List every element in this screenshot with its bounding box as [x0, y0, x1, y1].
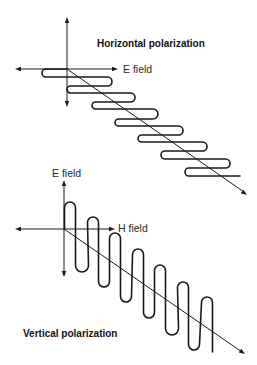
propagation-arrow-icon: [239, 349, 245, 354]
arrow-right-icon: [109, 227, 115, 231]
vertical-polarization-figure: E field H field Vertical polarization: [15, 167, 245, 354]
arrow-right-icon: [112, 67, 118, 71]
horizontal-polarization-figure: Horizontal polarization E field: [15, 17, 247, 195]
arrow-down-icon: [65, 101, 69, 107]
e-field-label: E field: [123, 63, 152, 75]
h-field-label: H field: [118, 222, 148, 234]
horizontal-wave: [42, 69, 240, 176]
arrow-up-icon: [62, 180, 66, 186]
e-field-label: E field: [52, 167, 81, 179]
arrow-up-icon: [65, 17, 69, 23]
arrow-left-icon: [15, 227, 21, 231]
polarization-diagram: Horizontal polarization E field E field …: [0, 0, 257, 365]
arrow-down-icon: [62, 271, 66, 277]
horizontal-polarization-title: Horizontal polarization: [97, 38, 205, 49]
vertical-polarization-title: Vertical polarization: [23, 328, 117, 339]
arrow-left-icon: [15, 67, 21, 71]
propagation-direction-line: [67, 69, 244, 192]
